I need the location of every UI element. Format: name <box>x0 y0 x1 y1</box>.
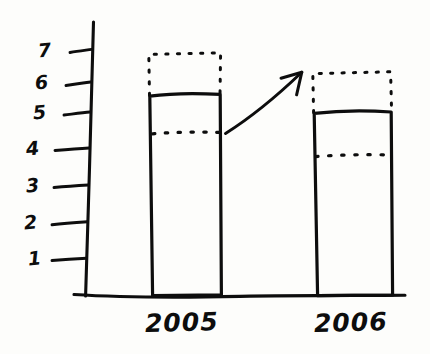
y-tick-mark-2 <box>52 222 87 225</box>
y-axis-line <box>86 22 94 296</box>
y-tick-mark-6 <box>66 82 91 86</box>
y-tick-mark-5 <box>64 112 90 115</box>
bar-2005-solid-outline <box>150 94 222 296</box>
chart-sketch-canvas <box>0 0 430 354</box>
category-label-2006: 2006 <box>314 309 388 336</box>
bar-2005-inner-dotted-line <box>153 132 220 134</box>
y-tick-mark-7 <box>70 49 92 52</box>
y-axis-label-3: 3 <box>25 175 40 195</box>
y-axis-label-6: 6 <box>34 72 49 92</box>
bar-2005-dotted-extension-outline <box>149 53 221 96</box>
y-axis-label-4: 4 <box>25 138 40 158</box>
growth-arrow-icon <box>226 72 302 133</box>
bar-2006-dotted-extension-outline <box>313 72 392 113</box>
category-label-2005: 2005 <box>145 309 219 336</box>
y-tick-mark-3 <box>54 185 88 188</box>
y-axis-label-7: 7 <box>37 40 52 60</box>
bar-2006-solid-outline <box>314 111 392 296</box>
bar-2006-inner-dotted-line <box>316 155 391 157</box>
y-axis-label-1: 1 <box>27 248 42 268</box>
y-axis-label-2: 2 <box>23 212 38 232</box>
y-axis-label-5: 5 <box>32 102 47 122</box>
y-tick-mark-1 <box>52 258 87 260</box>
hand-drawn-bar-chart: 7 6 5 4 3 2 1 2005 2006 <box>0 0 430 354</box>
y-tick-mark-4 <box>55 148 89 151</box>
